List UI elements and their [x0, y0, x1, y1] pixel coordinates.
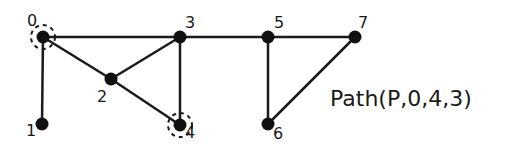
- node-2: [105, 73, 118, 86]
- node-label-3: 3: [185, 13, 195, 32]
- graph-diagram: 01234567 Path(P,0,4,3): [0, 0, 522, 154]
- edge-2-4: [111, 79, 180, 125]
- node-label-1: 1: [26, 121, 36, 140]
- node-3: [174, 31, 187, 44]
- edge-0-2: [43, 37, 111, 79]
- edge-2-3: [111, 37, 180, 79]
- node-1: [36, 118, 49, 131]
- node-label-7: 7: [358, 13, 368, 32]
- node-5: [262, 31, 275, 44]
- graph-edges: [42, 37, 355, 125]
- node-0: [37, 31, 50, 44]
- node-label-5: 5: [274, 13, 284, 32]
- edge-0-1: [42, 37, 43, 124]
- path-caption: Path(P,0,4,3): [330, 86, 472, 111]
- node-label-0: 0: [27, 11, 37, 30]
- node-label-4: 4: [185, 123, 195, 142]
- node-7: [349, 31, 362, 44]
- node-labels: 01234567: [26, 11, 368, 143]
- node-label-2: 2: [97, 87, 107, 106]
- node-label-6: 6: [273, 124, 283, 143]
